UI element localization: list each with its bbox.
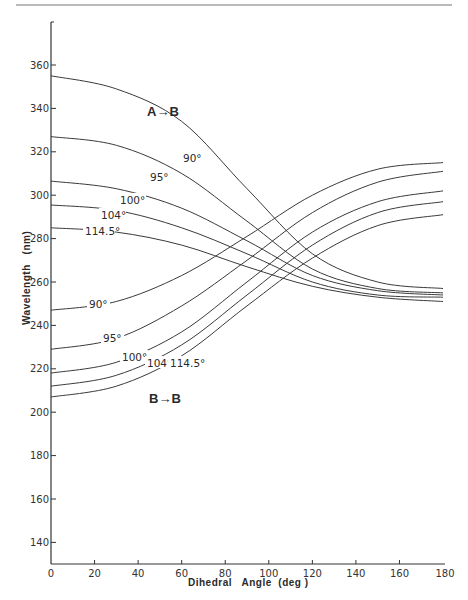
y-tick-label: 340 (30, 103, 49, 114)
bb-label-90: 90° (89, 298, 108, 310)
y-tick-label: 300 (30, 190, 49, 201)
y-tick-label: 360 (30, 60, 49, 71)
bb-label-114-5: 114.5° (170, 357, 205, 369)
y-tick-label: 320 (30, 146, 49, 157)
ab-label-104: 104° (101, 209, 126, 221)
curve-ab-100 (51, 181, 443, 295)
y-tick-label: 200 (30, 407, 49, 418)
x-tick-label: 60 (175, 568, 188, 579)
curve-ab-90 (51, 76, 443, 289)
x-tick-label: 140 (346, 568, 365, 579)
y-tick-label: 180 (30, 450, 49, 461)
ab-label-114-5: 114.5° (85, 225, 120, 237)
bb-label-100: 100° (122, 351, 147, 363)
ab-label-100: 100° (120, 194, 145, 206)
y-tick-label: 260 (30, 277, 49, 288)
y-tick-label: 220 (30, 363, 49, 374)
y-axis: 140160180200220240260280300320340360 (30, 22, 56, 564)
wavelength-vs-dihedral-chart: 140160180200220240260280300320340360 020… (0, 0, 468, 600)
x-tick-label: 180 (435, 568, 454, 579)
x-tick-label: 40 (132, 568, 145, 579)
curve-bb-95 (51, 171, 443, 349)
bb-labels: 90° 95° 100° 104° 114.5° (87, 297, 205, 369)
x-tick-label: 20 (88, 568, 101, 579)
ab-label-95: 95° (150, 171, 169, 183)
y-tick-label: 140 (30, 537, 49, 548)
x-tick-label: 0 (48, 568, 54, 579)
curve-ab-114-5 (51, 228, 443, 302)
group-label-a-to-b: A→B (147, 104, 179, 119)
y-tick-label: 160 (30, 494, 49, 505)
bb-label-95: 95° (103, 332, 122, 344)
ab-label-90: 90° (183, 152, 202, 164)
x-axis-title: Dihedral Angle (deg ) (188, 577, 309, 588)
group-label-b-to-b: B→B (149, 391, 181, 406)
ab-labels: 90° 95° 100° 104° 114.5° (83, 151, 205, 237)
y-tick-label: 240 (30, 320, 49, 331)
y-tick-label: 280 (30, 233, 49, 244)
y-axis-title: Wavelength (nm) (21, 231, 32, 325)
x-tick-label: 160 (390, 568, 409, 579)
